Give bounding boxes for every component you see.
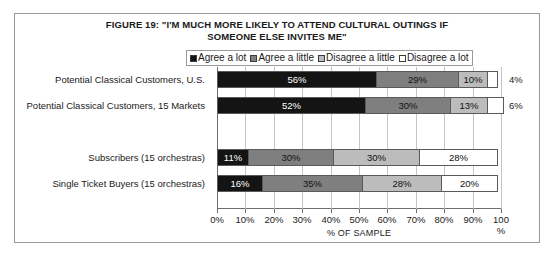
bar-segment[interactable]: 30%	[365, 97, 450, 114]
x-axis-tick	[217, 209, 218, 213]
legend-item[interactable]: Agree a lot	[190, 52, 246, 64]
legend-item-label: Agree a lot	[198, 52, 246, 63]
stacked-bar-row[interactable]: 11%30%30%28%	[217, 149, 498, 166]
legend-item[interactable]: Agree a little	[250, 52, 314, 64]
bar-segment[interactable]: 30%	[333, 149, 419, 166]
bar-segment[interactable]: 28%	[362, 175, 441, 192]
bar-outside-value: 4%	[509, 71, 523, 88]
x-axis-tick	[302, 209, 303, 213]
stacked-bar-row[interactable]: 56%29%10%	[217, 71, 498, 88]
bar-segment[interactable]: 30%	[248, 149, 333, 166]
x-axis-tick	[359, 209, 360, 213]
bar-segment[interactable]: 28%	[419, 149, 498, 166]
bar-category-label: Potential Classical Customers, U.S.	[15, 71, 211, 88]
bar-category-label-text: Single Ticket Buyers (15 orchestras)	[52, 175, 205, 192]
x-axis-tick-label: 100	[484, 214, 518, 225]
legend-swatch-icon	[190, 55, 197, 62]
x-axis-tick	[473, 209, 474, 213]
legend-item-label: Disagree a lot	[407, 52, 469, 63]
bar-category-label: Single Ticket Buyers (15 orchestras)	[15, 175, 211, 192]
bar-segment[interactable]: 13%	[450, 97, 487, 114]
x-axis-tick	[416, 209, 417, 213]
legend-item-label: Agree a little	[258, 52, 314, 63]
bar-segment[interactable]: 10%	[458, 71, 487, 88]
figure-frame: FIGURE 19: "I'M MUCH MORE LIKELY TO ATTE…	[14, 13, 540, 243]
x-axis-tick-label-suffix: %	[484, 225, 518, 236]
figure-title: FIGURE 19: "I'M MUCH MORE LIKELY TO ATTE…	[15, 19, 539, 43]
bar-outside-value: 6%	[509, 97, 523, 114]
x-axis-tick	[274, 209, 275, 213]
x-axis-tick	[387, 209, 388, 213]
x-axis-title: % OF SAMPLE	[217, 228, 501, 238]
bar-segment[interactable]: 29%	[376, 71, 458, 88]
chart-legend: Agree a lotAgree a littleDisagree a litt…	[186, 50, 473, 66]
bar-segment[interactable]: 52%	[217, 97, 365, 114]
x-axis-tick	[444, 209, 445, 213]
legend-item-label: Disagree a little	[326, 52, 395, 63]
bar-category-label-text: Potential Classical Customers, 15 Market…	[27, 97, 205, 114]
bar-segment[interactable]	[487, 71, 498, 88]
bar-category-label-text: Potential Classical Customers, U.S.	[55, 71, 205, 88]
x-axis-tick	[331, 209, 332, 213]
bar-category-label: Subscribers (15 orchestras)	[15, 149, 211, 166]
x-axis-tick	[245, 209, 246, 213]
legend-item[interactable]: Disagree a lot	[399, 52, 469, 64]
bar-segment[interactable]: 11%	[217, 149, 248, 166]
stacked-bar-row[interactable]: 52%30%13%	[217, 97, 504, 114]
legend-swatch-icon	[318, 55, 325, 62]
bar-segment[interactable]: 20%	[441, 175, 498, 192]
bar-segment[interactable]: 16%	[217, 175, 262, 192]
gridline	[501, 67, 502, 209]
x-axis-tick	[501, 209, 502, 213]
stacked-bar-row[interactable]: 16%35%28%20%	[217, 175, 498, 192]
legend-swatch-icon	[250, 55, 257, 62]
bar-category-label: Potential Classical Customers, 15 Market…	[15, 97, 211, 114]
legend-item[interactable]: Disagree a little	[318, 52, 395, 64]
figure-title-line-1: FIGURE 19: "I'M MUCH MORE LIKELY TO ATTE…	[15, 19, 539, 31]
bar-category-label-text: Subscribers (15 orchestras)	[88, 149, 205, 166]
figure-title-line-2: SOMEONE ELSE INVITES ME"	[15, 31, 539, 43]
legend-swatch-icon	[399, 55, 406, 62]
bar-segment[interactable]: 35%	[262, 175, 362, 192]
bar-segment[interactable]	[487, 97, 504, 114]
chart-plot-area: 56%29%10%52%30%13%11%30%30%28%16%35%28%2…	[217, 67, 501, 209]
bar-segment[interactable]: 56%	[217, 71, 376, 88]
